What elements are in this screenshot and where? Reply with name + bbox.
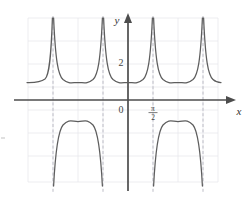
pi-over-2-numerator: π	[151, 104, 155, 113]
y-axis-label: y	[114, 14, 120, 26]
y-tick-label-2: 2	[119, 57, 124, 68]
pi-over-2-denominator: 2	[151, 113, 155, 122]
x-axis-label: x	[236, 105, 242, 117]
secant-graph-svg: y x 0 2 π 2	[0, 0, 251, 199]
graph-figure: y x 0 2 π 2	[0, 0, 251, 199]
origin-label: 0	[119, 104, 124, 115]
